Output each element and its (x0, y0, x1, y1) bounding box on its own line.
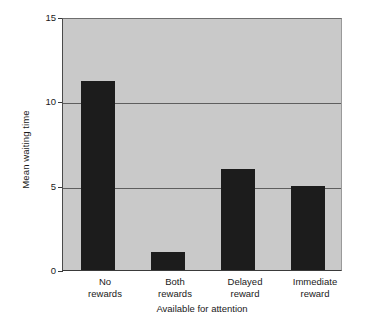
y-tick-label-5: 5 (30, 182, 56, 192)
x-tick-line-1: Immediate (272, 276, 358, 288)
y-axis-title: Mean waiting time (20, 85, 31, 215)
bar-chart-figure: Mean waiting time 15 10 5 0 No rewards B… (0, 0, 367, 327)
y-tick-label-15: 15 (30, 13, 56, 23)
y-tick-label-10: 10 (30, 97, 56, 107)
x-tick-line-2: reward (272, 288, 358, 300)
x-tick-label-immediate-reward: Immediate reward (272, 276, 358, 299)
bar-immediate-reward (291, 186, 325, 270)
y-tick-mark-0 (58, 271, 63, 272)
bar-both-rewards (151, 252, 185, 270)
plot-area (62, 18, 342, 271)
bar-delayed-reward (221, 169, 255, 270)
x-axis-title: Available for attention (62, 303, 342, 314)
bar-no-rewards (81, 81, 115, 270)
y-tick-label-0: 0 (30, 266, 56, 276)
